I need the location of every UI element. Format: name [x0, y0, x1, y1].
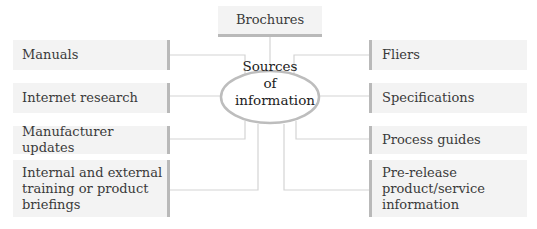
center-node-label: Sources of information [235, 58, 305, 109]
node-specifications-label: Specifications [382, 90, 474, 106]
node-manufacturer-updates: Manufacturer updates [13, 126, 170, 154]
node-internet-research-label: Internet research [22, 90, 138, 106]
node-manuals: Manuals [13, 40, 170, 70]
node-fliers-label: Fliers [382, 47, 420, 63]
node-pre-release-info-label: Pre-release product/service information [382, 165, 485, 213]
node-brochures-label: Brochures [236, 12, 304, 28]
node-internal-external-training: Internal and external training or produc… [13, 160, 170, 217]
node-fliers: Fliers [369, 40, 527, 70]
node-process-guides: Process guides [369, 126, 527, 154]
node-internet-research: Internet research [13, 83, 170, 113]
node-manufacturer-updates-label: Manufacturer updates [22, 124, 167, 156]
node-manuals-label: Manuals [22, 47, 78, 63]
node-pre-release-info: Pre-release product/service information [369, 160, 527, 217]
center-label: Sources of information [235, 58, 315, 108]
node-brochures: Brochures [218, 6, 322, 37]
node-internal-external-training-label: Internal and external training or produc… [22, 165, 162, 213]
node-specifications: Specifications [369, 83, 527, 113]
node-process-guides-label: Process guides [382, 132, 481, 148]
